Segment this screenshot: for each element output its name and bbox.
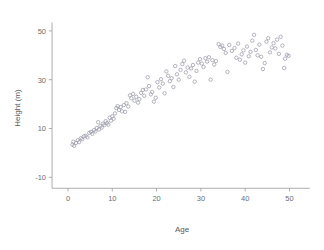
x-tick-label: 20 [152, 194, 160, 203]
x-tick-label: 0 [66, 194, 70, 203]
y-tick-label: 10 [38, 124, 46, 133]
plot-background [0, 0, 324, 250]
y-tick-label: -10 [35, 173, 46, 182]
x-tick-label: 30 [197, 194, 205, 203]
y-tick-label: 50 [38, 27, 46, 36]
y-axis-title: Height (m) [13, 89, 22, 127]
x-axis-title: Age [175, 225, 190, 234]
x-tick-label: 40 [241, 194, 249, 203]
x-tick-label: 10 [108, 194, 116, 203]
scatter-plot-canvas: 01020304050 -10103050 Age Height (m) [0, 0, 324, 250]
x-tick-label: 50 [285, 194, 293, 203]
chart-figure: 01020304050 -10103050 Age Height (m) [0, 0, 324, 250]
y-tick-label: 30 [38, 76, 46, 85]
